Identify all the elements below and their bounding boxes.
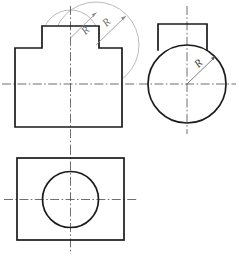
front-view-fill	[15, 26, 122, 127]
radius-dimension-large: R	[96, 15, 126, 45]
right-side-view: R	[139, 6, 236, 134]
radius-label-large: R	[99, 15, 113, 29]
front-view: R R	[2, 2, 139, 146]
drawing-canvas: R R R	[0, 0, 239, 258]
top-view	[4, 146, 137, 254]
engineering-drawing-sheet: R R R	[0, 0, 239, 258]
